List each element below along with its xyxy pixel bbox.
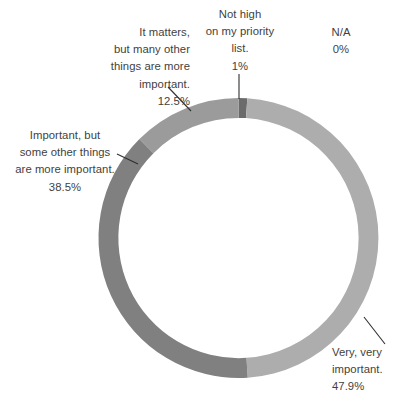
slice-label-line: Very, very (332, 344, 410, 361)
slice-label-percent: 1% (190, 58, 290, 75)
slice-label-line: Not high (190, 6, 290, 23)
slice-label-line: list. (190, 40, 290, 57)
slice-label-it-matters: It matters, but many other things are mo… (60, 24, 190, 110)
slice-label-important-but: Important, but some other things are mor… (4, 127, 126, 196)
slice-label-line: important. (60, 76, 190, 93)
slice-label-line: N/A (310, 24, 372, 41)
leader-line-very-important (364, 317, 385, 344)
slice-label-line: some other things (4, 144, 126, 161)
donut-slice-very-very-important (246, 98, 378, 377)
slice-label-not-high: Not high on my priority list. 1% (190, 6, 290, 75)
slice-label-line: It matters, (60, 24, 190, 41)
slice-label-line: on my priority (190, 23, 290, 40)
slice-label-na: N/A 0% (310, 24, 372, 58)
donut-ring (99, 98, 379, 378)
slice-label-line: things are more (60, 58, 190, 75)
slice-label-percent: 38.5% (4, 179, 126, 196)
slice-label-line: important. (332, 361, 410, 378)
slice-label-percent: 47.9% (332, 378, 410, 395)
donut-chart-figure: It matters, but many other things are mo… (0, 0, 413, 402)
slice-label-line: are more important. (4, 161, 126, 178)
donut-slice-not-high-priority (239, 98, 248, 118)
slice-label-very-important: Very, very important. 47.9% (332, 344, 410, 396)
slice-label-line: but many other (60, 41, 190, 58)
slice-label-line: Important, but (4, 127, 126, 144)
slice-label-percent: 0% (310, 41, 372, 58)
slice-label-percent: 12.5% (60, 93, 190, 110)
